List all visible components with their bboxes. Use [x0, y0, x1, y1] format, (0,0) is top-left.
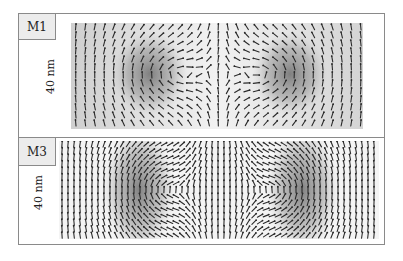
vortex-arrow-field-m1	[71, 23, 363, 129]
vector-field-m3	[59, 141, 379, 239]
scale-label-m1: 40 nm	[44, 59, 57, 94]
panel-m3: M3 40 nm	[19, 138, 384, 245]
panel-label-m3: M3	[19, 138, 56, 166]
panel-label-m1: M1	[19, 14, 56, 40]
vector-field-m1	[71, 23, 363, 129]
vortex-arrow-field-m3	[59, 141, 379, 239]
figure-frame: M1 40 nm M3 40 nm	[18, 13, 385, 245]
scale-label-m3: 40 nm	[32, 175, 45, 210]
panel-m1: M1 40 nm	[19, 14, 384, 138]
